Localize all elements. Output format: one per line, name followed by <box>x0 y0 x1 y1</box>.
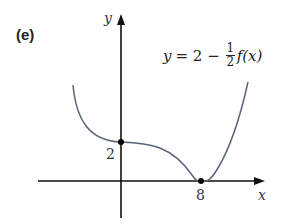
y-axis-label: y <box>104 10 112 26</box>
equation-rhs: f(x) <box>237 47 263 65</box>
x-root-label: 8 <box>196 187 205 203</box>
fraction-numerator: 1 <box>226 42 234 55</box>
function-curve <box>73 82 248 182</box>
point-x-root <box>198 178 204 184</box>
fraction-denominator: 2 <box>226 56 234 69</box>
equation-label: y = 2 − 1 2 f(x) <box>163 42 262 69</box>
equation-eq: = 2 − <box>175 47 219 65</box>
y-intercept-label: 2 <box>106 146 115 162</box>
x-axis-label: x <box>258 187 266 203</box>
equation-lhs: y <box>163 47 171 65</box>
graph <box>0 0 287 224</box>
point-y-intercept <box>118 139 124 145</box>
equation-fraction: 1 2 <box>226 42 235 69</box>
y-axis-arrow-icon <box>117 14 125 25</box>
x-axis-arrow-icon <box>254 177 265 185</box>
